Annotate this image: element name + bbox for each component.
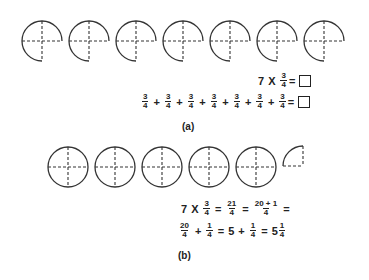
fraction: 34: [188, 93, 194, 110]
fraction: 14: [250, 222, 256, 239]
equals-sign: =: [289, 75, 295, 87]
plus-sign: +: [199, 96, 205, 108]
equals-sign: =: [218, 225, 224, 237]
whole-circle: [142, 147, 182, 187]
plus-sign: +: [222, 96, 228, 108]
multiplier: 7: [181, 203, 187, 215]
equals-sign: =: [242, 203, 248, 215]
plus-sign: +: [195, 225, 201, 237]
answer-box[interactable]: [298, 96, 310, 108]
fraction: 20 + 14: [254, 200, 278, 217]
fraction: 34: [142, 93, 148, 110]
equals-sign: =: [261, 225, 267, 237]
three-quarter-circle: [22, 21, 62, 61]
fraction: 34: [234, 93, 240, 110]
whole-circle: [189, 147, 229, 187]
three-quarter-circle: [69, 21, 109, 61]
three-quarter-circle: [163, 21, 203, 61]
equation-b2: 204 + 14 = 5 + 14 = 5 14: [178, 222, 286, 239]
plus-sign: +: [153, 96, 159, 108]
fraction: 34: [256, 93, 262, 110]
whole-circle: [236, 147, 276, 187]
fraction: 204: [179, 222, 190, 239]
whole-circle: [48, 147, 88, 187]
plus-sign: +: [238, 225, 244, 237]
answer-box[interactable]: [299, 75, 311, 87]
quarter-circle: [283, 146, 303, 166]
three-quarter-circle: [257, 21, 297, 61]
three-quarter-circle: [210, 21, 250, 61]
multiplier: 7: [258, 75, 264, 87]
fraction: 34: [203, 200, 209, 217]
mixed-fraction: 14: [279, 222, 285, 239]
plus-sign: +: [245, 96, 251, 108]
whole-number: 5: [228, 225, 234, 237]
plus-sign: +: [176, 96, 182, 108]
equation-a2: 34+34+34+34+34+34+34=: [141, 93, 310, 110]
label-a: (a): [182, 121, 194, 132]
fraction: 214: [226, 200, 237, 217]
whole-circle: [95, 147, 135, 187]
mixed-whole: 5: [272, 225, 278, 237]
times-sign: X: [191, 203, 198, 215]
equals-sign: =: [283, 203, 289, 215]
equals-sign: =: [288, 96, 294, 108]
plus-sign: +: [268, 96, 274, 108]
equation-b1: 7 X 34 = 214 = 20 + 14 =: [181, 200, 294, 217]
fraction: 34: [211, 93, 217, 110]
fraction: 14: [206, 222, 212, 239]
three-quarter-circle: [116, 21, 156, 61]
label-b: (b): [178, 250, 191, 261]
equation-a1: 7 X 34 =: [258, 72, 311, 89]
fraction: 34: [279, 93, 285, 110]
three-quarter-circle: [304, 21, 344, 61]
times-sign: X: [268, 75, 275, 87]
fraction: 34: [280, 72, 286, 89]
equals-sign: =: [215, 203, 221, 215]
fraction: 34: [165, 93, 171, 110]
